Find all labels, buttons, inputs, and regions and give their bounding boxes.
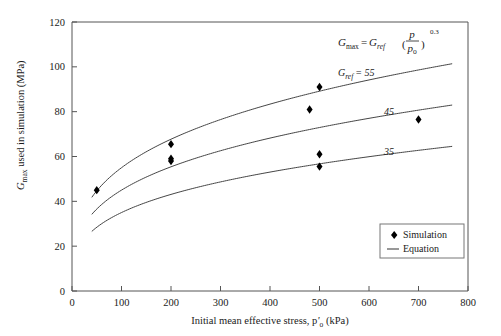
y-title-sub: max (20, 169, 29, 182)
equation-curve-45 (92, 105, 452, 214)
curve-label-45: 45 (384, 106, 394, 117)
x-tick-label: 800 (460, 297, 476, 308)
legend: Simulation Equation (380, 224, 464, 258)
eq-denominator-sub: o (413, 47, 417, 56)
x-tick-label: 700 (411, 297, 427, 308)
y-axis-ticks: 020406080100120 (49, 17, 77, 297)
curve55-g: G (338, 67, 345, 78)
x-axis-ticks: 0100200300400500600700800 (69, 286, 476, 308)
x-tick-label: 100 (114, 297, 130, 308)
curve55-value: = 55 (355, 67, 374, 78)
svg-text:Initial mean effective stress,: Initial mean effective stress, p'o (kPa) (191, 315, 349, 329)
y-tick-label: 40 (55, 196, 66, 207)
eq-paren-close: ) (421, 38, 425, 51)
x-tick-label: 0 (69, 297, 74, 308)
svg-text:po: po (406, 42, 417, 56)
eq-numerator: p (408, 28, 415, 40)
data-point (307, 105, 313, 113)
curve-label-35: 35 (383, 146, 394, 157)
curve55-sub: ref (345, 72, 354, 81)
chart-figure: 020406080100120 010020030040050060070080… (0, 0, 501, 336)
equation-curve-35 (92, 146, 452, 231)
y-tick-label: 120 (49, 17, 65, 28)
legend-label-simulation: Simulation (403, 229, 447, 240)
y-title-rest: used in simulation (MPa) (15, 60, 27, 170)
data-point (416, 115, 422, 123)
x-tick-label: 500 (312, 297, 328, 308)
x-axis-title: Initial mean effective stress, p'o (kPa) (191, 315, 349, 329)
y-axis-title: Gmax used in simulation (MPa) (15, 60, 29, 190)
equation-curves (92, 64, 452, 232)
x-tick-label: 300 (213, 297, 229, 308)
eq-gref: G (369, 36, 377, 48)
x-tick-label: 200 (163, 297, 179, 308)
svg-text:Gmax used in simulation (MPa): Gmax used in simulation (MPa) (15, 60, 29, 190)
eq-exponent: 0.3 (430, 28, 439, 36)
y-tick-label: 20 (55, 241, 66, 252)
y-tick-label: 60 (55, 151, 66, 162)
equation-annotation: Gmax=Gref ( p po ) 0.3 (338, 28, 439, 56)
data-point (317, 83, 323, 91)
x-title-lead: Initial mean effective stress, p (191, 315, 317, 326)
x-tick-label: 400 (262, 297, 278, 308)
y-tick-label: 80 (55, 106, 66, 117)
y-tick-label: 100 (49, 61, 65, 72)
eq-g: G (338, 36, 346, 48)
y-tick-label: 0 (60, 286, 65, 297)
chart-svg: 020406080100120 010020030040050060070080… (0, 0, 501, 336)
eq-equals: = (361, 36, 367, 48)
x-tick-label: 600 (361, 297, 377, 308)
x-title-tail: (kPa) (323, 315, 349, 327)
legend-label-equation: Equation (403, 243, 439, 254)
eq-paren-open: ( (402, 38, 406, 51)
simulation-points (94, 83, 422, 195)
svg-text:Gref= 55: Gref= 55 (338, 67, 375, 81)
data-point (317, 150, 323, 158)
eq-gref-sub: ref (377, 42, 386, 51)
eq-g-sub: max (346, 42, 359, 51)
svg-text:Gmax=Gref: Gmax=Gref (338, 36, 386, 51)
data-point (168, 140, 174, 148)
curve-label-55: Gref= 55 (338, 67, 375, 81)
